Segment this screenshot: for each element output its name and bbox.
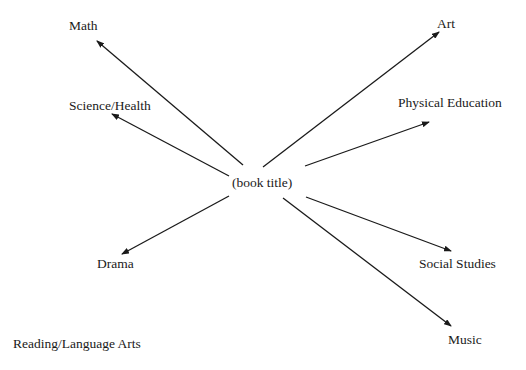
node-science-health: Science/Health [69, 99, 151, 113]
center-node-book-title: (book title) [232, 176, 292, 190]
node-math: Math [69, 19, 98, 33]
node-physical-education: Physical Education [398, 96, 502, 110]
arrow-to-science [112, 114, 229, 176]
node-reading-language-arts: Reading/Language Arts [13, 337, 141, 351]
node-music: Music [448, 333, 482, 347]
node-social-studies: Social Studies [419, 257, 496, 271]
node-art: Art [437, 17, 455, 31]
arrow-to-social [306, 197, 451, 251]
web-diagram: (book title) Math Science/Health Art Phy… [0, 0, 526, 370]
arrow-to-drama [122, 196, 229, 254]
node-drama: Drama [97, 257, 134, 271]
arrow-to-pe [305, 122, 429, 166]
